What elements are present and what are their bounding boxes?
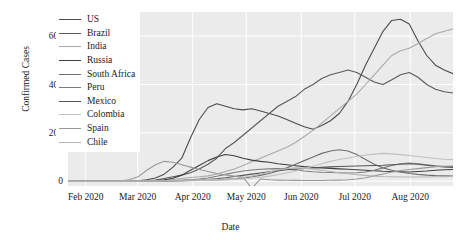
x-tick-label: May 2020 <box>227 192 266 202</box>
x-tick-label: Apr 2020 <box>175 192 211 202</box>
legend-item-label: India <box>87 41 107 52</box>
legend-item-peru[interactable]: Peru <box>59 81 135 95</box>
legend-item-label: Peru <box>87 82 104 93</box>
legend-item-label: Chile <box>87 137 108 148</box>
legend-swatch-icon <box>59 74 81 75</box>
legend-item-label: Spain <box>87 123 109 134</box>
legend-item-spain[interactable]: Spain <box>59 122 135 136</box>
x-tick-label: Aug 2020 <box>391 192 429 202</box>
legend-item-brazil[interactable]: Brazil <box>59 27 135 41</box>
legend-swatch-icon <box>59 46 81 47</box>
chart-figure: 020k40k60k Feb 2020Mar 2020Apr 2020May 2… <box>0 0 461 244</box>
legend-item-south-africa[interactable]: South Africa <box>59 67 135 81</box>
x-axis-title: Date <box>0 222 461 232</box>
legend-swatch-icon <box>59 142 81 143</box>
legend-item-label: South Africa <box>87 69 135 80</box>
x-tick-label: Jun 2020 <box>284 192 319 202</box>
x-tick-label: Feb 2020 <box>68 192 104 202</box>
legend-item-us[interactable]: US <box>59 13 135 27</box>
legend[interactable]: USBrazilIndiaRussiaSouth AfricaPeruMexic… <box>56 10 140 152</box>
legend-item-label: US <box>87 14 99 25</box>
legend-item-mexico[interactable]: Mexico <box>59 95 135 109</box>
legend-swatch-icon <box>59 87 81 88</box>
legend-item-label: Mexico <box>87 96 116 107</box>
legend-swatch-icon <box>59 128 81 129</box>
legend-swatch-icon <box>59 60 81 61</box>
x-tick-label: Mar 2020 <box>119 192 156 202</box>
x-tick-label: Jul 2020 <box>339 192 371 202</box>
legend-swatch-icon <box>59 19 81 20</box>
legend-item-label: Russia <box>87 55 112 66</box>
legend-item-india[interactable]: India <box>59 40 135 54</box>
legend-item-label: Brazil <box>87 28 110 39</box>
y-tick-label: 0 <box>58 176 63 186</box>
y-axis-title: Confirmed Cases <box>21 19 31 139</box>
legend-swatch-icon <box>59 114 81 115</box>
legend-swatch-icon <box>59 33 81 34</box>
legend-item-label: Colombia <box>87 109 124 120</box>
legend-item-russia[interactable]: Russia <box>59 54 135 68</box>
legend-swatch-icon <box>59 101 81 102</box>
legend-item-colombia[interactable]: Colombia <box>59 108 135 122</box>
legend-item-chile[interactable]: Chile <box>59 135 135 149</box>
